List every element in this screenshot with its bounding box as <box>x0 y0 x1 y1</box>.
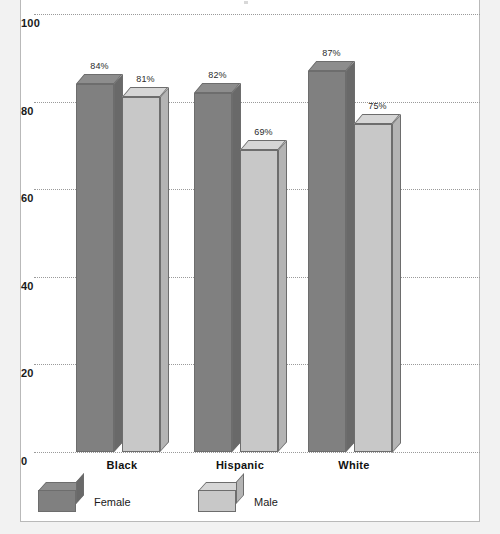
bar-white-female <box>308 71 346 452</box>
x-axis-label-hispanic: Hispanic <box>180 459 300 471</box>
bar-side-face <box>160 87 169 452</box>
gridline-100 <box>34 14 480 15</box>
bar-side-face <box>278 140 287 452</box>
bar-value-label-white-male: 75% <box>348 101 408 111</box>
bar-black-male <box>122 97 160 452</box>
legend-swatch-female <box>38 482 84 512</box>
bar-value-label-hispanic-male: 69% <box>234 127 294 137</box>
legend-label-male: Male <box>254 496 278 508</box>
bar-front-face <box>354 124 392 453</box>
bar-hispanic-male <box>240 150 278 452</box>
bar-black-female <box>76 84 114 452</box>
legend-label-female: Female <box>94 496 131 508</box>
x-axis-label-black: Black <box>62 459 182 471</box>
bar-value-label-black-male: 81% <box>116 74 176 84</box>
bar-front-face <box>240 150 278 452</box>
y-axis-tick-label-0: 0 <box>21 455 47 467</box>
y-axis-tick-label-80: 80 <box>21 105 47 117</box>
x-axis-label-white: White <box>294 459 414 471</box>
legend-swatch-front <box>198 490 236 512</box>
y-axis-tick-label-60: 60 <box>21 192 47 204</box>
bar-front-face <box>76 84 114 452</box>
legend-swatch-side <box>236 473 244 504</box>
chart-screenshot: 100806040200 84%81%82%69%87%75% BlackHis… <box>0 0 500 534</box>
y-axis-tick-label-20: 20 <box>21 367 47 379</box>
gridline-0 <box>34 452 480 453</box>
legend-swatch-side <box>76 473 84 504</box>
bar-value-label-black-female: 84% <box>70 61 130 71</box>
legend-swatch-male <box>198 482 244 512</box>
bar-side-face <box>392 114 401 452</box>
y-axis-tick-label-100: 100 <box>21 17 47 29</box>
bar-value-label-white-female: 87% <box>302 48 362 58</box>
legend-swatch-front <box>38 490 76 512</box>
bar-front-face <box>122 97 160 452</box>
bar-front-face <box>194 93 232 452</box>
bar-white-male <box>354 124 392 453</box>
bar-front-face <box>308 71 346 452</box>
bar-hispanic-female <box>194 93 232 452</box>
bar-value-label-hispanic-female: 82% <box>188 70 248 80</box>
y-axis-tick-label-40: 40 <box>21 280 47 292</box>
bar-chart-plot-area: 100806040200 84%81%82%69%87%75% BlackHis… <box>0 0 500 534</box>
